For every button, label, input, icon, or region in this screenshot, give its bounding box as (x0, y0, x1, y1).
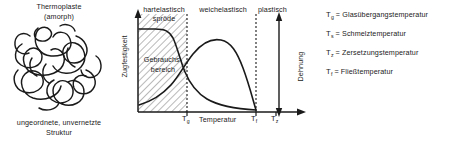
gebrauchsbereich-line1: Gebrauchs- (138, 55, 188, 65)
legend-symbol-tz-sub: z (331, 52, 334, 58)
x-tick-tf-symbol: T (251, 114, 256, 123)
thermoplast-caption-line2: Struktur (0, 128, 120, 138)
y-axis-right-label: Dehnung (296, 37, 305, 97)
thermoplast-diagram: Thermoplaste (amorph) ungeordnete, (0, 0, 450, 144)
thermoplast-title: Thermoplaste (amorph) (0, 2, 118, 21)
polymer-coil-sketch (8, 22, 110, 114)
legend-item-tz: Tz = Zersetzungstemperatur (326, 48, 418, 57)
zone-label-hartelastisch-line1: hartelastisch (143, 5, 185, 14)
zone-label-weichelastisch-text: weichelastisch (199, 5, 247, 14)
thermoplast-structure-panel: Thermoplaste (amorph) ungeordnete, (0, 0, 118, 144)
thermoplast-title-line1: Thermoplaste (0, 2, 118, 12)
legend-text-tg: Glasübergangstemperatur (342, 10, 428, 19)
legend-equals-tz: = (336, 48, 340, 57)
legend-equals-ts: = (336, 29, 340, 38)
temperature-legend: Tg = Glasübergangstemperatur Ts = Schmel… (326, 10, 450, 90)
legend-symbol-tg: Tg (326, 10, 334, 19)
thermoplast-caption: ungeordnete, unvernetzte Struktur (0, 118, 120, 137)
gebrauchsbereich-line2: bereich (138, 65, 188, 75)
zone-label-plastisch-text: plastisch (258, 5, 287, 14)
x-axis-label: Temperatur (199, 115, 236, 124)
legend-item-tg: Tg = Glasübergangstemperatur (326, 10, 428, 19)
legend-symbol-ts: Ts (326, 29, 333, 38)
property-temperature-chart: hartelastisch spröde weichelastisch plas… (113, 0, 308, 144)
legend-text-tz: Zersetzungstemperatur (342, 48, 418, 57)
x-tick-tg: Tg (182, 114, 189, 123)
zone-label-weichelastisch: weichelastisch (192, 5, 254, 14)
legend-equals-tg: = (336, 10, 340, 19)
legend-symbol-tf-sub: f (331, 71, 333, 77)
x-tick-tf-sub: f (256, 118, 257, 124)
zone-label-plastisch: plastisch (258, 5, 287, 14)
legend-symbol-tz: Tz (326, 48, 333, 57)
legend-symbol-ts-sub: s (331, 33, 334, 39)
x-tick-tg-sub: g (187, 118, 190, 124)
legend-equals-tf: = (334, 67, 338, 76)
x-tick-tz-sub: z (276, 118, 279, 124)
x-axis-arrow (297, 109, 306, 116)
gebrauchsbereich-annotation: Gebrauchs- bereich (138, 55, 188, 74)
legend-item-ts: Ts = Schmelztemperatur (326, 29, 406, 38)
thermoplast-caption-line1: ungeordnete, unvernetzte (0, 118, 120, 128)
y-axis-left-label: Zugfestigkeit (120, 27, 129, 87)
zone-label-sproede: spröde (135, 14, 193, 23)
legend-text-ts: Schmelztemperatur (342, 29, 406, 38)
thermoplast-title-line2: (amorph) (0, 12, 118, 22)
zone-label-sproede-text: spröde (153, 14, 176, 23)
legend-symbol-tg-sub: g (331, 14, 334, 20)
zone-label-hartelastisch: hartelastisch (135, 5, 193, 14)
legend-text-tf: Fließtemperatur (341, 67, 393, 76)
legend-symbol-tf: Tf (326, 67, 332, 76)
x-tick-tg-symbol: T (182, 114, 187, 123)
x-tick-tf: Tf (251, 114, 257, 123)
x-tick-tz: Tz (271, 114, 278, 123)
legend-item-tf: Tf = Fließtemperatur (326, 67, 393, 76)
x-tick-tz-symbol: T (271, 114, 276, 123)
